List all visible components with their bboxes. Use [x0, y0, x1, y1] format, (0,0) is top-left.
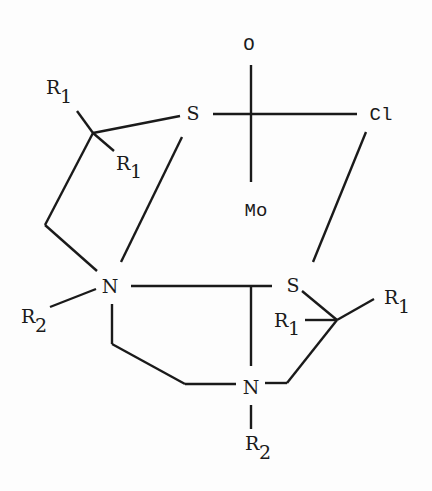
atom-nitrogen-left: N	[102, 275, 119, 297]
substituent-r1-top-left: R 1	[46, 76, 72, 107]
atom-nitrogen-bottom: N	[243, 376, 260, 398]
bond-r1-c-top	[77, 111, 93, 133]
substituent-r2-left: R 2	[21, 305, 47, 336]
svg-text:R: R	[116, 152, 131, 174]
svg-text:R: R	[245, 432, 260, 454]
bond-c-s-top	[93, 116, 180, 133]
substituent-r2-bottom: R 2	[245, 432, 271, 463]
bond-ch2-n-left	[45, 225, 97, 271]
bond-s-right-c-right	[302, 291, 337, 320]
bond-cl-s-right	[313, 132, 366, 262]
bond-c-right-r1-outer	[337, 299, 374, 320]
svg-text:R: R	[21, 305, 36, 327]
svg-text:1: 1	[130, 160, 142, 182]
svg-text:R: R	[384, 286, 399, 308]
svg-text:R: R	[274, 309, 289, 331]
svg-text:2: 2	[35, 314, 47, 336]
atom-chlorine: Cl	[370, 104, 393, 126]
svg-text:R: R	[46, 76, 61, 98]
chemical-structure-diagram: O S Cl Mo N S N R 1 R 1 R 2 R 1 R 1 R 2	[0, 0, 432, 491]
bond-c-ch2-left	[45, 133, 93, 225]
svg-text:1: 1	[288, 317, 300, 339]
substituent-r1-inner-left: R 1	[116, 152, 142, 182]
svg-text:2: 2	[259, 441, 271, 463]
bond-c-r1-inner	[93, 133, 114, 151]
bond-ch2-ch2	[112, 344, 185, 384]
svg-text:1: 1	[60, 85, 72, 107]
atom-sulfur-right: S	[286, 274, 299, 296]
atom-oxygen: O	[243, 34, 254, 56]
atom-molybdenum: Mo	[245, 200, 268, 222]
substituent-r1-right-inner: R 1	[274, 309, 300, 339]
svg-text:1: 1	[398, 295, 410, 317]
bond-n-left-r2	[50, 289, 96, 307]
atom-sulfur-top: S	[186, 102, 199, 124]
substituent-r1-right-outer: R 1	[384, 286, 410, 317]
bonds	[45, 65, 374, 429]
